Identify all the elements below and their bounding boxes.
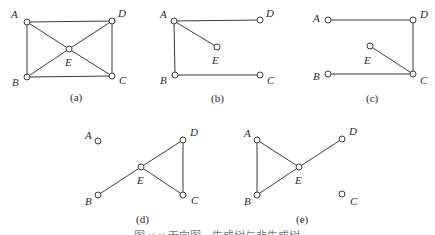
vertex-label: D <box>348 125 357 137</box>
edge-B-C <box>27 76 112 77</box>
edge-A-B <box>174 21 175 75</box>
edge-E-D <box>299 139 342 167</box>
vertex-D <box>180 137 186 143</box>
graph-panel-e: ADEBC(e) <box>243 125 358 226</box>
vertex-label: D <box>189 126 198 138</box>
vertex-B <box>325 71 331 77</box>
vertex-label: A <box>159 8 167 20</box>
vertex-A <box>325 17 331 23</box>
vertex-label: E <box>294 174 302 186</box>
vertex-C <box>339 191 345 197</box>
edge-E-C <box>69 49 112 76</box>
panels-group: ADEBC(a)ADEBC(b)ADEBC(c)ADEBC(d)ADEBC(e) <box>10 7 428 226</box>
panel-label: (a) <box>70 91 83 104</box>
graph-panel-c: ADEBC(c) <box>312 8 428 105</box>
vertex-label: B <box>12 76 19 88</box>
graph-panel-a: ADEBC(a) <box>10 7 127 104</box>
panel-label: (c) <box>366 92 379 105</box>
edge-A-E <box>27 22 69 49</box>
vertex-B <box>95 192 101 198</box>
panel-label: (e) <box>296 213 309 226</box>
graph-panel-b: ADEBC(b) <box>159 7 275 105</box>
edge-A-E <box>257 140 299 167</box>
panel-label: (d) <box>136 213 149 226</box>
graph-panel-d: ADEBC(d) <box>84 126 199 226</box>
vertex-E <box>296 164 302 170</box>
vertex-label: E <box>136 174 144 186</box>
vertex-A <box>254 137 260 143</box>
vertex-D <box>410 17 416 23</box>
vertex-E <box>138 164 144 170</box>
figure-caption: 图 x-x 无向图、生成树与非生成树 <box>134 229 301 235</box>
edge-D-E <box>69 21 112 49</box>
vertex-label: D <box>419 8 428 20</box>
vertex-C <box>109 73 115 79</box>
vertex-A <box>24 19 30 25</box>
vertex-D <box>257 17 263 23</box>
vertex-label: D <box>265 7 274 19</box>
vertex-label: D <box>117 7 126 19</box>
vertex-label: B <box>160 74 167 86</box>
edge-B-E <box>98 167 141 195</box>
edge-E-C <box>370 46 413 74</box>
vertex-D <box>109 18 115 24</box>
vertex-C <box>180 192 186 198</box>
vertex-B <box>172 72 178 78</box>
vertex-A <box>171 18 177 24</box>
graph-figure: ADEBC(a)ADEBC(b)ADEBC(c)ADEBC(d)ADEBC(e)… <box>0 0 435 235</box>
edge-E-B <box>27 49 69 77</box>
vertex-label: E <box>211 54 219 66</box>
vertex-E <box>214 44 220 50</box>
vertex-C <box>257 72 263 78</box>
vertex-label: A <box>10 8 18 20</box>
vertex-label: B <box>85 195 92 207</box>
edge-B-E <box>257 167 299 195</box>
vertex-C <box>410 71 416 77</box>
vertex-label: A <box>84 129 92 141</box>
vertex-label: C <box>119 74 127 86</box>
vertex-B <box>254 192 260 198</box>
vertex-E <box>66 46 72 52</box>
vertex-label: B <box>244 195 251 207</box>
vertex-A <box>95 138 101 144</box>
vertex-label: E <box>64 56 72 68</box>
vertex-label: B <box>313 70 320 82</box>
vertex-label: C <box>267 74 275 86</box>
edge-A-D <box>174 20 260 21</box>
edge-E-D <box>141 140 183 167</box>
edge-A-D <box>27 21 112 22</box>
vertex-B <box>24 74 30 80</box>
vertex-label: C <box>350 195 358 207</box>
vertex-label: C <box>420 74 428 86</box>
vertex-label: A <box>312 12 320 24</box>
panel-label: (b) <box>211 92 224 105</box>
vertex-label: E <box>363 54 371 66</box>
vertex-E <box>367 43 373 49</box>
edge-E-C <box>141 167 183 195</box>
vertex-label: C <box>191 194 199 206</box>
vertex-label: A <box>243 127 251 139</box>
vertex-D <box>339 136 345 142</box>
edge-A-E <box>174 21 217 47</box>
